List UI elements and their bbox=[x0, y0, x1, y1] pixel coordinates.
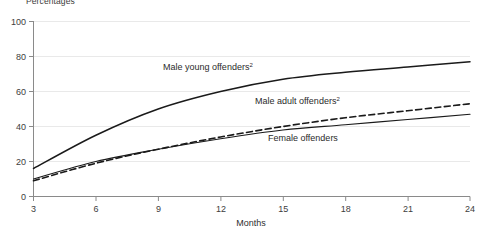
annotation-male-adult-offenders-footnote: 2 bbox=[336, 96, 340, 102]
x-tick-label-18: 18 bbox=[341, 204, 351, 214]
y-tick-labels: 100 80 60 40 20 0 bbox=[11, 17, 26, 202]
x-axis-title: Months bbox=[236, 218, 266, 228]
annotation-male-young-offenders-footnote: 2 bbox=[249, 62, 253, 68]
x-tick-label-9: 9 bbox=[156, 204, 161, 214]
x-tick-label-24: 24 bbox=[465, 204, 475, 214]
y-tick-label-80: 80 bbox=[16, 52, 26, 62]
series-female-offenders-line bbox=[34, 114, 471, 179]
y-tick-label-60: 60 bbox=[16, 87, 26, 97]
chart-container: Percentages bbox=[0, 0, 483, 233]
x-tick-label-12: 12 bbox=[216, 204, 226, 214]
annotation-female-offenders: Female offenders bbox=[268, 133, 338, 143]
x-tick-label-3: 3 bbox=[31, 204, 36, 214]
line-chart: 100 80 60 40 20 0 3 6 9 12 15 18 21 24 M… bbox=[0, 0, 483, 233]
y-axis bbox=[29, 21, 34, 197]
y-tick-label-20: 20 bbox=[16, 157, 26, 167]
y-tick-label-0: 0 bbox=[21, 192, 26, 202]
series-lines bbox=[34, 62, 471, 181]
gridlines bbox=[33, 22, 470, 162]
x-tick-label-21: 21 bbox=[403, 204, 413, 214]
series-male-young-offenders-line bbox=[34, 62, 471, 169]
annotation-male-adult-offenders: Male adult offenders2 bbox=[255, 96, 340, 106]
series-male-adult-offenders-line bbox=[34, 104, 471, 181]
x-axis bbox=[33, 197, 470, 202]
annotation-male-young-offenders: Male young offenders2 bbox=[163, 62, 253, 72]
annotation-female-offenders-text: Female offenders bbox=[268, 133, 338, 143]
y-tick-label-100: 100 bbox=[11, 17, 26, 27]
annotation-male-young-offenders-text: Male young offenders bbox=[163, 62, 250, 72]
x-tick-label-6: 6 bbox=[93, 204, 98, 214]
x-tick-labels: 3 6 9 12 15 18 21 24 bbox=[31, 204, 475, 214]
annotation-male-adult-offenders-text: Male adult offenders bbox=[255, 96, 337, 106]
x-tick-label-15: 15 bbox=[278, 204, 288, 214]
y-tick-label-40: 40 bbox=[16, 122, 26, 132]
